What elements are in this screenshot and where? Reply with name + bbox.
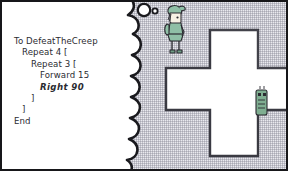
code-line: Repeat 3 [ — [14, 59, 134, 70]
code-line: Repeat 4 [ — [14, 47, 134, 58]
code-line: ] — [14, 104, 134, 115]
comic-panel: To DefeatTheCreepRepeat 4 [Repeat 3 [For… — [0, 0, 288, 171]
code-line: To DefeatTheCreep — [14, 36, 134, 47]
code-line: ] — [14, 93, 134, 104]
code-line: Forward 15 — [14, 70, 134, 81]
creep-character — [252, 88, 272, 118]
code-block: To DefeatTheCreepRepeat 4 [Repeat 3 [For… — [14, 36, 134, 127]
code-line-emphasis: Right 90 — [40, 82, 84, 92]
code-line: Right 90 — [14, 82, 134, 93]
thought-bubble-trail — [138, 4, 158, 16]
cross-path — [184, 24, 288, 148]
code-line: End — [14, 116, 134, 127]
hero-character — [161, 3, 191, 55]
